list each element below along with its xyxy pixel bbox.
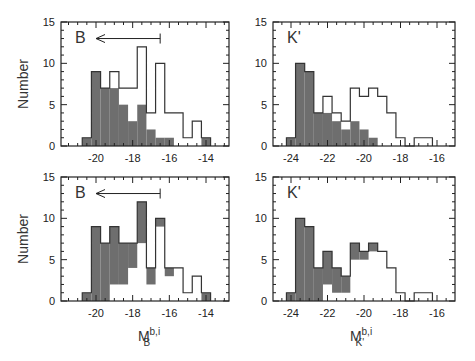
y-tick-label: 0	[261, 140, 267, 152]
x-tick-label: -24	[283, 307, 299, 319]
shaded-bar	[314, 113, 323, 146]
shaded-bar	[101, 243, 110, 301]
histogram-figure: 051015-20-18-16-14BNumber051015-24-22-20…	[0, 0, 475, 361]
shaded-bar	[91, 227, 100, 301]
x-axis-label-B: Mb,iB	[138, 326, 160, 348]
x-tick-label: -16	[161, 307, 177, 319]
y-tick-label: 5	[261, 254, 267, 266]
x-axis-label-K: Mb,iK'	[350, 326, 372, 348]
y-tick-label: 15	[43, 171, 55, 183]
y-tick-label: 15	[255, 171, 267, 183]
x-tick-label: -22	[320, 307, 336, 319]
shaded-bar	[350, 243, 359, 260]
shaded-bar	[110, 88, 119, 146]
y-tick-label: 5	[261, 99, 267, 111]
shaded-bar	[359, 251, 368, 259]
shaded-bar	[91, 72, 100, 146]
x-tick-label: -18	[393, 307, 409, 319]
shaded-bar	[146, 268, 155, 285]
shaded-bar	[305, 72, 314, 146]
y-tick-label: 10	[255, 57, 267, 69]
y-tick-label: 5	[49, 99, 55, 111]
shaded-bar	[341, 276, 350, 293]
band-label: K'	[287, 29, 301, 46]
x-tick-label: -18	[125, 152, 141, 164]
x-tick-label: -20	[356, 152, 372, 164]
y-tick-label: 10	[43, 57, 55, 69]
x-tick-label: -18	[393, 152, 409, 164]
x-tick-label: -16	[429, 307, 445, 319]
x-tick-label: -14	[198, 307, 214, 319]
shaded-bar	[350, 121, 359, 146]
x-tick-label: -24	[283, 152, 299, 164]
y-axis-label: Number	[15, 214, 31, 264]
shaded-bar	[137, 202, 146, 243]
y-tick-label: 0	[49, 295, 55, 307]
band-label: K'	[287, 184, 301, 201]
shaded-bar	[369, 243, 378, 251]
shaded-bar	[137, 105, 146, 146]
shaded-bar	[332, 121, 341, 146]
x-tick-label: -20	[356, 307, 372, 319]
band-label: B	[75, 29, 86, 46]
shaded-bar	[305, 227, 314, 301]
y-tick-label: 15	[43, 16, 55, 28]
shaded-bar	[323, 251, 332, 284]
x-tick-label: -22	[320, 152, 336, 164]
x-tick-label: -18	[125, 307, 141, 319]
y-tick-label: 0	[261, 295, 267, 307]
shaded-bar	[314, 268, 323, 301]
shaded-bar	[296, 218, 305, 301]
panel-bottom-right: 051015-24-22-20-18-16K'	[255, 171, 455, 319]
shaded-bar	[128, 243, 137, 268]
panel-top-right: 051015-24-22-20-18-16K'	[255, 16, 455, 164]
panel-bottom-left: 051015-20-18-16-14BNumber	[15, 171, 229, 319]
y-tick-label: 10	[43, 212, 55, 224]
x-tick-label: -14	[198, 152, 214, 164]
y-tick-label: 5	[49, 254, 55, 266]
shaded-bar	[156, 218, 165, 226]
x-tick-label: -16	[429, 152, 445, 164]
x-tick-label: -20	[88, 152, 104, 164]
panel-top-left: 051015-20-18-16-14BNumber	[15, 16, 229, 164]
shaded-bar	[119, 105, 128, 146]
x-tick-label: -16	[161, 152, 177, 164]
shaded-bar	[165, 268, 174, 276]
shaded-bar	[119, 243, 128, 284]
y-tick-label: 10	[255, 212, 267, 224]
y-axis-label: Number	[15, 59, 31, 109]
band-label: B	[75, 184, 86, 201]
shaded-bar	[332, 268, 341, 293]
shaded-bar	[296, 63, 305, 146]
shaded-bar	[101, 88, 110, 146]
y-tick-label: 15	[255, 16, 267, 28]
x-tick-label: -20	[88, 307, 104, 319]
y-tick-label: 0	[49, 140, 55, 152]
shaded-bar	[110, 227, 119, 285]
